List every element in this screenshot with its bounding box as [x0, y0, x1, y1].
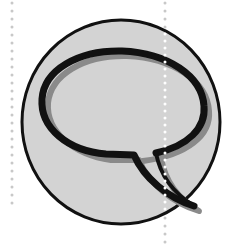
illustration-svg	[0, 0, 237, 245]
speech-bubble-illustration	[0, 0, 237, 245]
